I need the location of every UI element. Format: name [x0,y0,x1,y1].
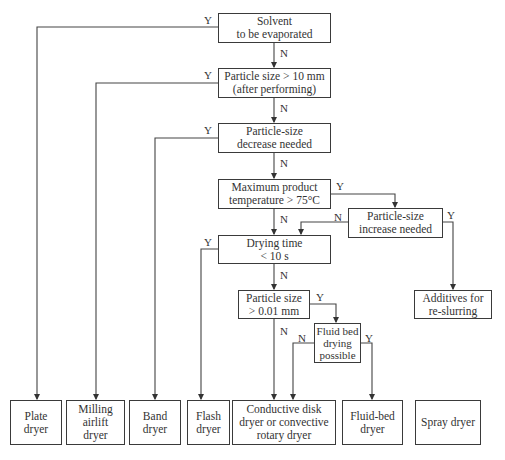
outcome-additives: Additives for re-slurring [414,290,492,319]
label-yes: Y [316,292,324,303]
label-no: N [280,214,288,225]
decision-particle-10mm: Particle size > 10 mm (after performing) [218,68,331,98]
label-yes: Y [365,333,373,344]
label-yes: Y [204,15,212,26]
outcome-conductive-dryer: Conductive disk dryer or convective rota… [232,400,336,445]
outcome-fluid-bed-dryer: Fluid-bed dryer [342,400,403,445]
decision-size-increase: Particle-size increase needed [348,208,443,238]
label-no: N [280,158,288,169]
decision-drying-time: Drying time < 10 s [218,235,331,264]
label-yes: Y [204,125,212,136]
decision-particle-001mm: Particle size > 0.01 mm [238,290,310,319]
outcome-band-dryer: Band dryer [129,400,181,445]
label-no: N [280,270,288,281]
label-yes: Y [336,181,344,192]
label-no: N [280,326,288,337]
decision-size-decrease: Particle-size decrease needed [218,123,331,153]
outcome-spray-dryer: Spray dryer [415,400,481,445]
label-yes: Y [447,210,455,221]
label-no: N [280,103,288,114]
outcome-plate-dryer: Plate dryer [10,400,62,445]
label-yes: Y [204,237,212,248]
decision-max-temp: Maximum product temperature > 75°C [218,179,331,209]
outcome-flash-dryer: Flash dryer [187,400,230,445]
dryer-selection-flowchart: Solvent to be evaporated Particle size >… [0,0,505,460]
label-yes: Y [204,70,212,81]
decision-solvent: Solvent to be evaporated [218,13,331,43]
outcome-milling-dryer: Milling airlift dryer [66,400,125,445]
label-no: N [280,48,288,59]
decision-fluid-bed-possible: Fluid bed drying possible [314,323,361,363]
label-no: N [334,212,342,223]
label-no: N [298,333,306,344]
